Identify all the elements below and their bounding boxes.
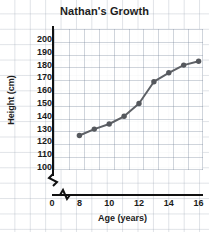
- data-point-marker: [92, 126, 97, 131]
- data-point-marker: [166, 70, 171, 75]
- data-series-layer: [0, 0, 209, 232]
- growth-line-chart: Nathan's Growth 200 190 180 170 160 150: [0, 0, 209, 232]
- data-point-marker: [181, 62, 186, 67]
- data-point-marker: [136, 101, 141, 106]
- data-point-marker: [151, 79, 156, 84]
- data-point-marker: [121, 114, 126, 119]
- data-point-marker: [107, 121, 112, 126]
- data-line: [79, 61, 198, 135]
- data-point-marker: [196, 59, 201, 64]
- data-point-marker: [77, 133, 82, 138]
